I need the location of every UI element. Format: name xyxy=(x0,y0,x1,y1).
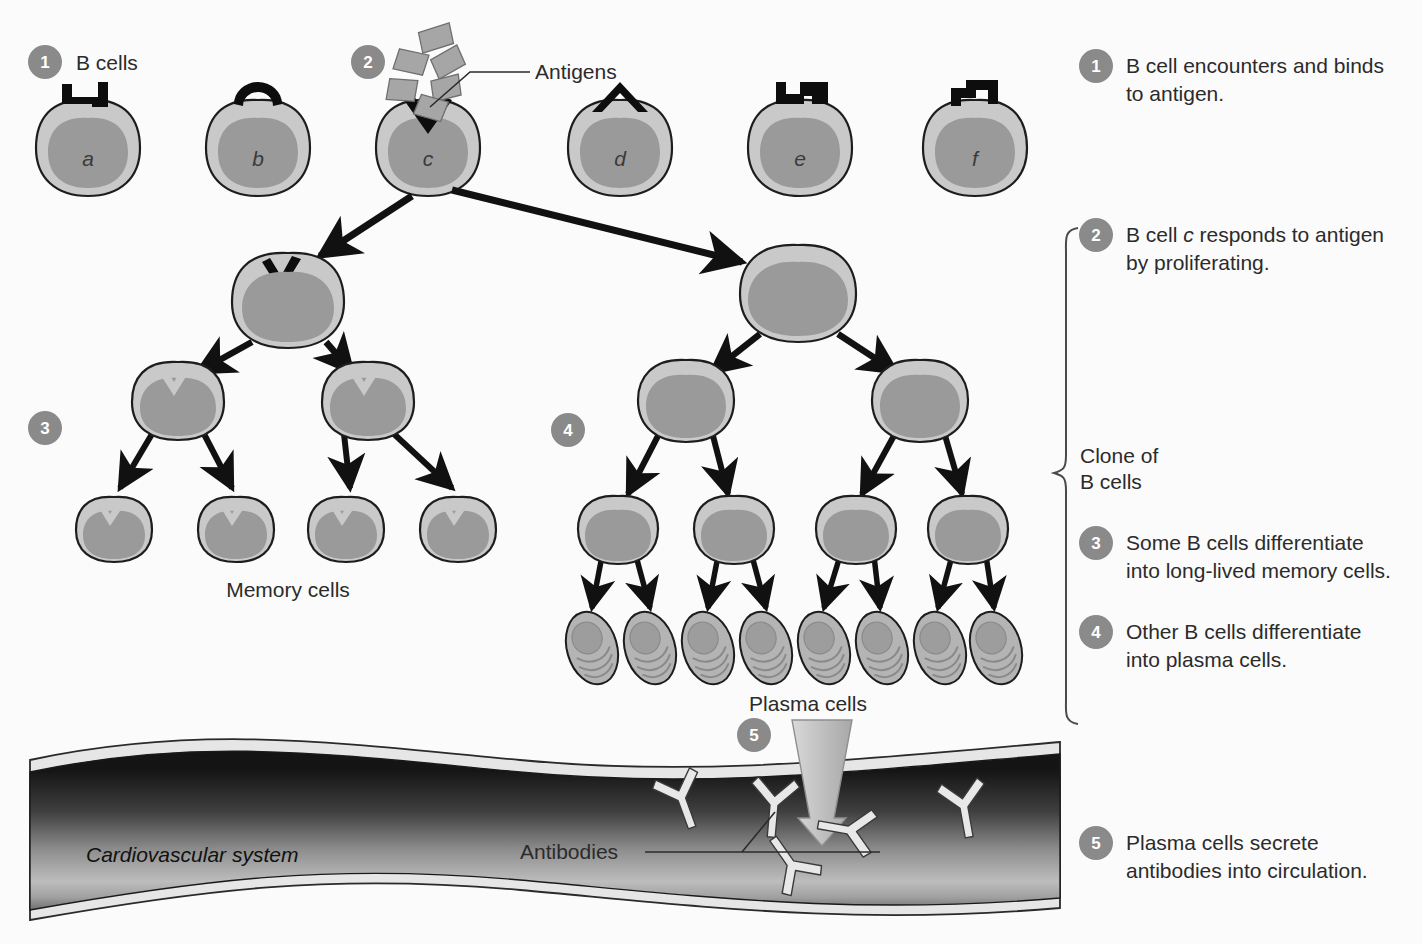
legend-step-5-line1: Plasma cells secrete xyxy=(1126,831,1319,854)
legend-step-3-line2: into long-lived memory cells. xyxy=(1126,559,1391,582)
legend-step-4-line2: into plasma cells. xyxy=(1126,648,1287,671)
legend-step-3-line1: Some B cells differentiate xyxy=(1126,531,1364,554)
legend-step-5-line2: antibodies into circulation. xyxy=(1126,859,1368,882)
legend-step-1-num: 1 xyxy=(1091,57,1100,76)
legend-step-1-line2: to antigen. xyxy=(1126,82,1224,105)
legend-layer: 1 B cell encounters and binds to antigen… xyxy=(0,0,1422,944)
legend-step-5[interactable]: 5 Plasma cells secrete antibodies into c… xyxy=(1079,826,1368,882)
legend-step-2[interactable]: 2 B cell c responds to antigen by prolif… xyxy=(1079,218,1384,274)
legend-step-5-num: 5 xyxy=(1091,834,1100,853)
legend-step-4[interactable]: 4 Other B cells differentiate into plasm… xyxy=(1079,615,1361,671)
legend-step-3[interactable]: 3 Some B cells differentiate into long-l… xyxy=(1079,526,1391,582)
legend-step-4-line1: Other B cells differentiate xyxy=(1126,620,1361,643)
legend-step-1[interactable]: 1 B cell encounters and binds to antigen… xyxy=(1079,49,1384,105)
legend-step-3-num: 3 xyxy=(1091,534,1100,553)
legend-step-2-line1: B cell c responds to antigen xyxy=(1126,223,1384,246)
legend-step-1-line1: B cell encounters and binds xyxy=(1126,54,1384,77)
legend-step-2-line2: by proliferating. xyxy=(1126,251,1270,274)
legend-step-4-num: 4 xyxy=(1091,623,1101,642)
diagram-canvas: Cardiovascular system Antibodies xyxy=(0,0,1422,944)
legend-step-2-num: 2 xyxy=(1091,226,1100,245)
